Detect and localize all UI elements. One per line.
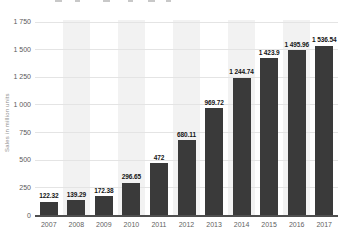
bar (315, 46, 333, 216)
x-tick-label: 2008 (63, 221, 91, 228)
clipped-title-mark (128, 0, 133, 2)
x-tick-label: 2016 (283, 221, 311, 228)
bar-value-label: 969.72 (192, 99, 236, 106)
x-tick-label: 2010 (118, 221, 146, 228)
x-tick-label: 2017 (310, 221, 338, 228)
clipped-title-mark (55, 0, 62, 2)
bar (260, 58, 278, 215)
bar (95, 196, 113, 215)
x-tick-label: 2009 (90, 221, 118, 228)
x-tick-label: 2014 (228, 221, 256, 228)
bar (233, 78, 251, 216)
bar (178, 140, 196, 215)
bar-value-label: 296.65 (109, 173, 153, 180)
bar-value-label: 1 536.54 (302, 36, 346, 43)
bar (40, 202, 58, 216)
bar (288, 50, 306, 215)
x-tick-label: 2007 (35, 221, 63, 228)
gridline (35, 22, 338, 23)
bar-chart: Sales in million units 1 7501 5001 2501 … (0, 0, 346, 246)
bar (150, 163, 168, 215)
y-tick-label: 1 000 (0, 101, 31, 109)
y-tick-label: 500 (0, 156, 31, 164)
bar-value-label: 1 423.9 (247, 49, 291, 56)
clipped-title-mark (103, 0, 110, 2)
bar-value-label: 1 244.74 (220, 68, 264, 75)
clipped-title-mark (75, 0, 80, 2)
y-tick-label: 250 (0, 184, 31, 192)
x-tick-label: 2015 (255, 221, 283, 228)
x-tick-label: 2012 (173, 221, 201, 228)
x-tick-label: 2011 (145, 221, 173, 228)
clipped-title-mark (148, 0, 155, 2)
y-tick-label: 750 (0, 129, 31, 137)
clipped-title-mark (166, 0, 171, 2)
bar (122, 183, 140, 216)
bar-value-label: 172.38 (82, 187, 126, 194)
y-tick-label: 1 250 (0, 73, 31, 81)
x-axis-line (35, 215, 338, 217)
y-tick-label: 1 500 (0, 46, 31, 54)
y-tick-label: 1 750 (0, 18, 31, 26)
bar (67, 200, 85, 215)
x-tick-label: 2013 (200, 221, 228, 228)
bar (205, 108, 223, 215)
y-tick-label: 0 (0, 212, 31, 220)
bar-value-label: 680.11 (165, 131, 209, 138)
bar-value-label: 472 (137, 154, 181, 161)
